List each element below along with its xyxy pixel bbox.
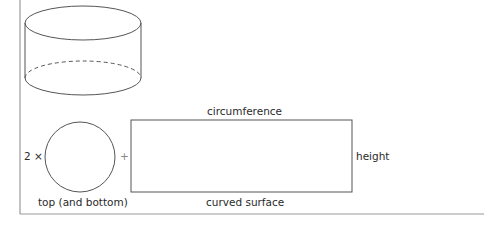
cylinder-bottom-front-arc	[25, 78, 141, 95]
plus-sign: +	[120, 150, 129, 162]
top-bottom-circle	[45, 122, 115, 192]
multiplier-label: 2 ×	[24, 150, 43, 162]
circumference-label: circumference	[207, 105, 282, 117]
cylinder-figure	[25, 6, 141, 95]
circle-label: top (and bottom)	[38, 196, 128, 208]
height-label: height	[356, 150, 389, 162]
curved-surface-rectangle	[131, 120, 352, 192]
curved-surface-label: curved surface	[206, 196, 284, 208]
cylinder-bottom-back-arc-dashed	[25, 61, 141, 78]
cylinder-top-ellipse	[25, 6, 141, 40]
